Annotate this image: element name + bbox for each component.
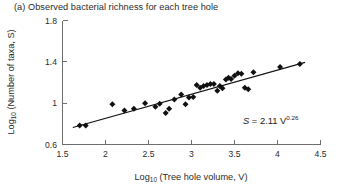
data-point	[166, 106, 172, 112]
data-point	[182, 101, 188, 107]
data-point	[171, 97, 177, 103]
x-axis-title-prefix: Log	[135, 172, 150, 182]
y-axis-ticks: 0.611.41.8	[45, 16, 67, 150]
x-tick-label: 1.5	[57, 149, 69, 159]
data-point	[211, 81, 217, 87]
figure-panel-a: (a) Observed bacterial richness for each…	[0, 0, 338, 187]
x-tick-label: 3.5	[229, 149, 241, 159]
equation-annotation: S = 2.11 V0.26	[243, 114, 299, 126]
x-axis-ticks: 1.522.533.544.5	[57, 140, 327, 159]
data-point	[250, 69, 256, 75]
equation-body: = 2.11 V	[249, 115, 287, 126]
data-point	[297, 61, 303, 67]
equation-exponent: 0.26	[286, 114, 299, 121]
x-tick-label: 2.5	[143, 149, 155, 159]
data-point	[142, 100, 148, 106]
x-tick-label: 4	[275, 149, 280, 159]
y-axis-title-prefix: Log	[6, 119, 16, 134]
y-tick-label: 0.6	[45, 140, 57, 150]
x-tick-label: 4.5	[315, 149, 327, 159]
x-tick-label: 2	[103, 149, 108, 159]
y-tick-label: 1	[52, 98, 57, 108]
y-tick-label: 1.4	[45, 57, 57, 67]
x-tick-label: 3	[189, 149, 194, 159]
data-point	[157, 101, 163, 107]
data-point	[214, 88, 220, 94]
x-axis-title-rest: (Tree hole volume, V)	[157, 172, 248, 182]
data-point	[77, 122, 83, 128]
x-axis-title: Log10 (Tree hole volume, V)	[135, 172, 248, 183]
scatter-plot: 0.611.41.8 1.522.533.544.5 Log10 (Tree h…	[0, 0, 338, 187]
y-tick-label: 1.8	[45, 16, 57, 26]
y-axis-title-rest: (Number of taxa, S)	[6, 29, 16, 112]
data-point	[163, 110, 169, 116]
data-point	[109, 101, 115, 107]
y-axis-title: Log10 (Number of taxa, S)	[6, 29, 17, 134]
